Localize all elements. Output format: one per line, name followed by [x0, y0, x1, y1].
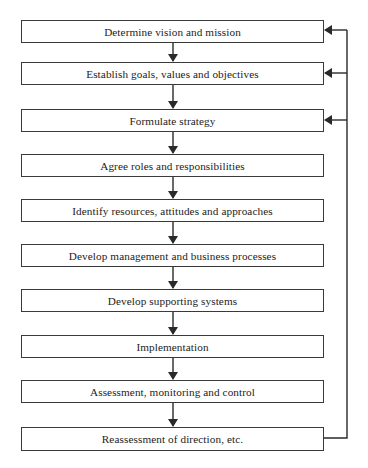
feedback-loop: [324, 30, 347, 438]
flowchart: Determine vision and mission Establish g…: [0, 0, 368, 468]
connector-lines: [0, 0, 368, 468]
